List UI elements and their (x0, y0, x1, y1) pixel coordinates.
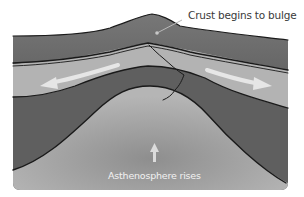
crust-bulge-label: Crust begins to bulge (188, 9, 296, 21)
crust-label-pointer-dot-icon (155, 31, 159, 35)
rift-diagram (0, 0, 304, 197)
asthenosphere-label: Asthenosphere rises (108, 170, 201, 181)
